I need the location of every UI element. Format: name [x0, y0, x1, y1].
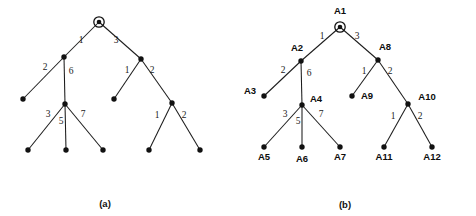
edge-weight-label: 3: [355, 31, 360, 41]
tree-node-dot: [261, 144, 266, 149]
edge-weight-label: 1: [320, 31, 325, 41]
tree-edge: [64, 57, 65, 104]
tree-edge: [301, 61, 302, 105]
tree-node-dot: [405, 101, 410, 106]
edge-weight-label: 3: [46, 109, 51, 119]
edge-weight-label: 6: [307, 68, 312, 78]
tree-edge: [384, 104, 408, 147]
edge-weight-label: 2: [43, 62, 48, 72]
node-label-a7: A7: [334, 151, 346, 162]
edge-weight-label: 5: [296, 116, 301, 126]
tree-edge: [141, 59, 172, 103]
node-label-a9: A9: [361, 90, 373, 101]
tree-edge: [378, 60, 408, 104]
tree-node-dot: [298, 58, 303, 63]
edge-weight-label: 5: [59, 116, 64, 126]
tree-node-dot: [25, 147, 30, 152]
edge-weight-label: 2: [150, 65, 155, 75]
node-label-a2: A2: [291, 42, 303, 53]
tree-edge: [99, 22, 141, 59]
tree-node-dot: [146, 147, 151, 152]
tree-edge: [149, 103, 172, 150]
tree-node-dot: [429, 144, 434, 149]
node-label-a5: A5: [258, 151, 271, 162]
node-label-a8: A8: [379, 41, 391, 52]
node-label-a1: A1: [334, 5, 347, 16]
edge-weight-label: 3: [114, 35, 119, 45]
tree-node-dot: [375, 57, 380, 62]
node-label-a12: A12: [423, 151, 440, 162]
tree-node-dot: [299, 102, 304, 107]
tree-edge: [65, 104, 66, 150]
edge-weight-label: 1: [391, 111, 396, 121]
tree-node-dot: [381, 144, 386, 149]
tree-node-dot: [349, 93, 354, 98]
edge-weight-label: 1: [79, 35, 84, 45]
edge-weight-label: 1: [362, 66, 367, 76]
edge-weight-label: 2: [182, 110, 187, 120]
node-label-a11: A11: [376, 151, 394, 162]
edge-weight-label: 2: [388, 66, 393, 76]
tree-diagram-canvas: 13263571212 13263571212A1A2A3A4A5A6A7A8A…: [0, 0, 476, 216]
node-label-a3: A3: [244, 85, 256, 96]
caption-a: (a): [99, 198, 111, 209]
tree-node-dot: [111, 96, 116, 101]
figure-container: 13263571212 13263571212A1A2A3A4A5A6A7A8A…: [0, 0, 476, 216]
edge-weight-label: 1: [155, 110, 160, 120]
edge-weight-label: 1: [125, 65, 130, 75]
edge-weight-label: 7: [81, 109, 86, 119]
tree-node-dot: [197, 147, 202, 152]
tree-node-dot: [337, 144, 342, 149]
node-label-a4: A4: [310, 93, 323, 104]
node-label-a6: A6: [296, 153, 308, 164]
tree-node-dot: [20, 96, 25, 101]
panel-b-labeled-tree: 13263571212A1A2A3A4A5A6A7A8A9A10A11A12: [244, 5, 441, 164]
tree-node-dot: [62, 101, 67, 106]
edge-weight-label: 3: [283, 109, 288, 119]
edge-weight-label: 7: [319, 109, 324, 119]
tree-node-dot: [138, 56, 143, 61]
tree-node-dot: [61, 54, 66, 59]
edge-weight-label: 2: [418, 111, 423, 121]
edge-weight-label: 2: [281, 65, 286, 75]
caption-b: (b): [339, 199, 351, 210]
panel-a-unlabeled-tree: 13263571212: [20, 17, 202, 153]
tree-node-dot: [261, 93, 266, 98]
root-node-dot: [97, 20, 102, 25]
root-node-dot: [338, 25, 343, 30]
tree-node-dot: [169, 100, 174, 105]
tree-node-dot: [299, 144, 304, 149]
node-label-a10: A10: [418, 91, 435, 102]
tree-node-dot: [63, 147, 68, 152]
edge-weight-label: 6: [69, 66, 74, 76]
tree-node-dot: [100, 147, 105, 152]
